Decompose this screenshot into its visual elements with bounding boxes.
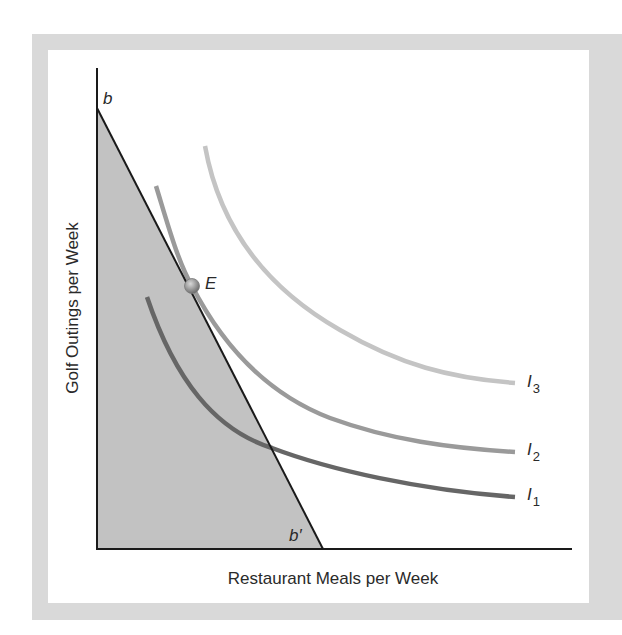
label-I3-subscript: 3 <box>533 381 540 396</box>
indifference-curve-3 <box>205 146 515 383</box>
label-I2-main: I <box>527 440 532 459</box>
label-b-prime: b′ <box>289 526 302 546</box>
label-I3: I3 <box>527 372 540 392</box>
label-I1-subscript: 1 <box>533 494 540 509</box>
x-axis-title: Restaurant Meals per Week <box>228 569 438 589</box>
label-I1: I1 <box>527 485 540 505</box>
label-I2-subscript: 2 <box>533 449 540 464</box>
label-I2: I2 <box>527 440 540 460</box>
y-axis-title: Golf Outings per Week <box>63 222 83 394</box>
label-b: b <box>103 89 112 109</box>
equilibrium-point <box>185 279 200 294</box>
label-E: E <box>205 274 216 294</box>
label-I3-main: I <box>527 372 532 391</box>
label-I1-main: I <box>527 485 532 504</box>
